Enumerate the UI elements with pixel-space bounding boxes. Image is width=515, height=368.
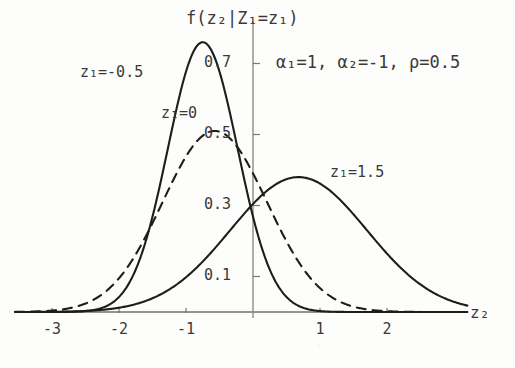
curve-label-z1-15: z₁=1.5: [330, 163, 384, 181]
curve-label-z1-0: z₁=0: [161, 104, 197, 122]
figure-canvas: f(z₂|Z₁=z₁) α₁=1, α₂=-1, ρ=0.5 z₁=-0.5 z…: [0, 0, 515, 368]
x-tick-label-3: 1: [316, 320, 325, 338]
x-tick-label-1: -2: [110, 320, 128, 338]
x-tick-label-4: 2: [383, 320, 392, 338]
curves-group: [15, 42, 467, 312]
density-curve-z1-0: [15, 131, 467, 312]
x-tick-label-0: -3: [43, 320, 61, 338]
density-curve-z1-neg05: [15, 42, 467, 312]
parameter-annotation: α₁=1, α₂=-1, ρ=0.5: [276, 52, 460, 72]
density-curve-z1-15: [15, 177, 467, 312]
parameter-annotation-text: α₁=1, α₂=-1, ρ=0.5: [276, 52, 460, 72]
x-tick-label-2: -1: [177, 320, 195, 338]
y-tick-label-3: 0.7: [204, 53, 231, 71]
y-tick-label-0: 0.1: [204, 266, 231, 284]
curve-label-z1-neg05: z₁=-0.5: [80, 63, 143, 81]
y-axis-title: f(z₂|Z₁=z₁): [186, 8, 299, 28]
y-axis-ticks: [253, 64, 260, 277]
x-axis-title: z₂: [470, 303, 489, 322]
y-tick-label-1: 0.3: [204, 195, 231, 213]
y-tick-label-2: 0.5: [204, 124, 231, 142]
